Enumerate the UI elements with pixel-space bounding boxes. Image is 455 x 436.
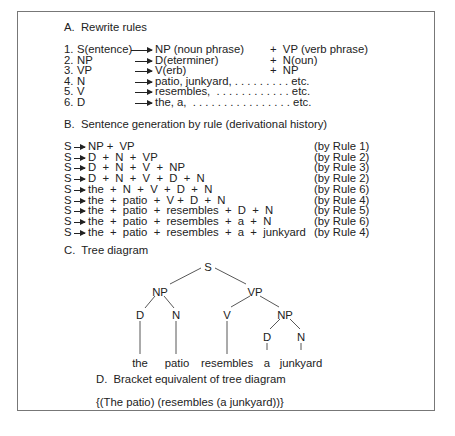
leaf-word: junkyard bbox=[279, 357, 323, 369]
edge bbox=[215, 268, 246, 284]
node-v: V bbox=[223, 309, 231, 321]
node-n: N bbox=[297, 331, 305, 343]
node-n: N bbox=[172, 309, 180, 321]
node-np: NP bbox=[152, 286, 168, 298]
bracket-notation: {(The patio) (resembles (a junkyard))} bbox=[96, 397, 284, 408]
leaf-word: patio bbox=[165, 357, 190, 369]
node-np: NP bbox=[277, 309, 293, 321]
node-d: D bbox=[136, 309, 144, 321]
node-vp: VP bbox=[247, 286, 262, 298]
tree-diagram: S NP VP D N V NP D N the patio resembles… bbox=[0, 0, 455, 436]
leaf-word: a bbox=[264, 357, 271, 369]
leaf-word: resembles bbox=[201, 357, 253, 369]
edge bbox=[260, 296, 279, 307]
section-d-title: D. Bracket equivalent of tree diagram bbox=[96, 374, 286, 385]
edge bbox=[170, 268, 201, 284]
node-d: D bbox=[263, 331, 271, 343]
leaf-word: the bbox=[132, 357, 148, 369]
node-s: S bbox=[204, 261, 212, 273]
